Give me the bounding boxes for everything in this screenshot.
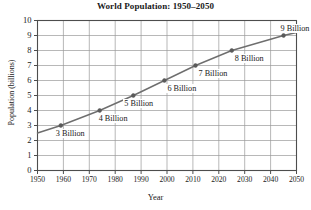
y-tick-label: 9: [18, 31, 32, 39]
y-tick-label: 3: [18, 121, 32, 129]
data-point-label: 8 Billion: [234, 54, 265, 63]
x-tick-label: 1950: [25, 176, 51, 184]
y-tick-label: 8: [18, 46, 32, 54]
y-tick-label: 0: [18, 166, 32, 174]
population-chart-figure: World Population: 1950–2050 Population (…: [0, 0, 311, 210]
y-tick-label: 5: [18, 91, 32, 99]
y-tick-label: 6: [18, 76, 32, 84]
x-tick-label: 1980: [102, 176, 128, 184]
y-tick-label: 10: [18, 16, 32, 24]
x-tick-label: 2020: [206, 176, 232, 184]
x-tick-label: 2040: [258, 176, 284, 184]
x-tick-label: 2000: [154, 176, 180, 184]
y-tick-label: 7: [18, 61, 32, 69]
x-tick-label: 2030: [232, 176, 258, 184]
x-tick-label: 1960: [50, 176, 76, 184]
x-tick-label: 2010: [180, 176, 206, 184]
x-tick-label: 2050: [284, 176, 310, 184]
data-point-label: 4 Billion: [98, 114, 129, 123]
data-point-label: 7 Billion: [197, 69, 228, 78]
y-tick-label: 1: [18, 151, 32, 159]
data-point-label: 3 Billion: [55, 129, 86, 138]
data-point-label: 5 Billion: [123, 99, 154, 108]
data-point-label: 6 Billion: [166, 84, 197, 93]
y-tick-label: 2: [18, 136, 32, 144]
y-tick-label: 4: [18, 106, 32, 114]
x-tick-label: 1990: [128, 176, 154, 184]
data-point-label: 9 Billion: [280, 24, 311, 33]
x-tick-label: 1970: [76, 176, 102, 184]
